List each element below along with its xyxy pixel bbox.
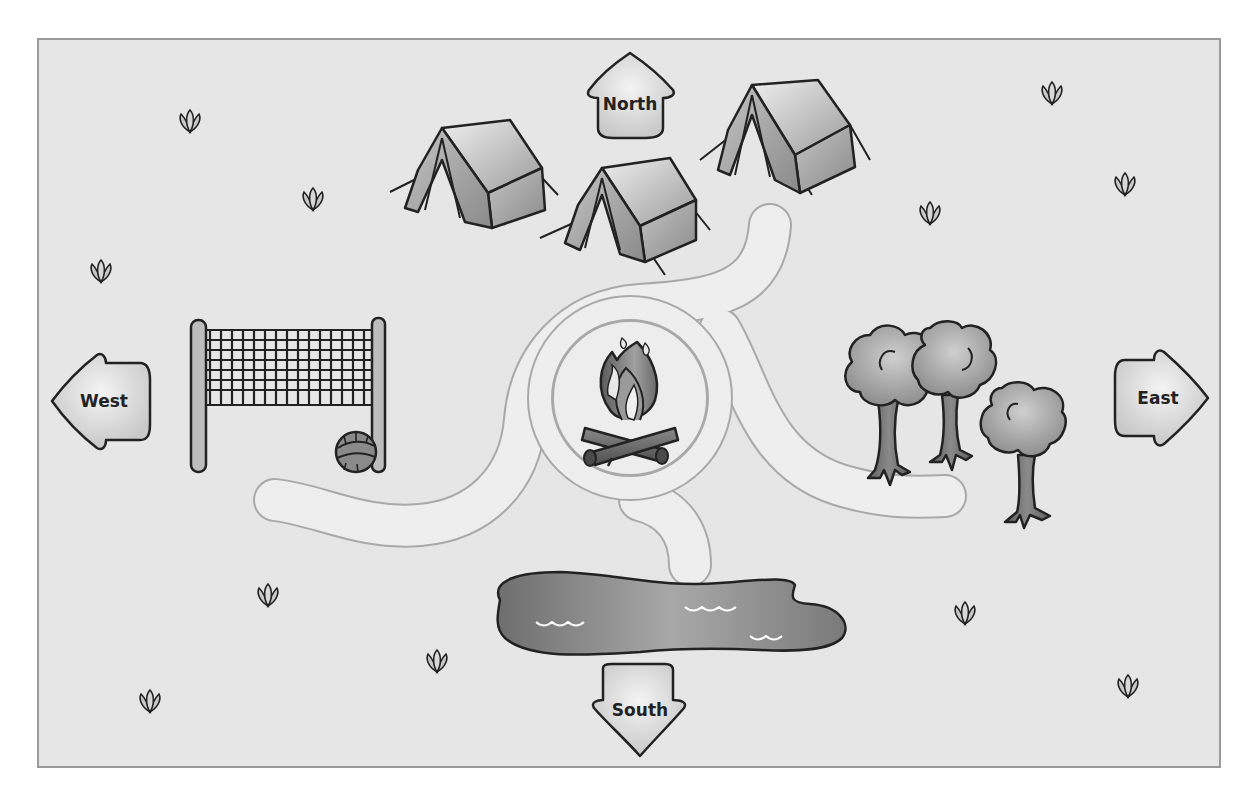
grass-sprout-icon: [1115, 173, 1135, 195]
grass-sprout-icon: [303, 188, 323, 210]
grass-sprout-icon: [258, 584, 278, 606]
tent-icon: [390, 120, 558, 228]
west-arrow: West: [52, 354, 150, 449]
grass-sprout-icon: [920, 202, 940, 224]
campground-map: North South West East: [0, 0, 1250, 794]
grass-sprout-icon: [1118, 675, 1138, 697]
grass-sprout-icon: [140, 690, 160, 712]
east-label: East: [1137, 388, 1178, 408]
north-arrow: North: [588, 53, 674, 138]
north-label: North: [603, 94, 658, 114]
grass-sprout-icon: [180, 110, 200, 132]
tent-icon: [540, 158, 710, 275]
grass-sprout-icon: [427, 650, 447, 672]
east-arrow: East: [1115, 351, 1208, 446]
tent-icon: [700, 80, 870, 195]
pond-icon: [498, 572, 846, 655]
south-label: South: [612, 700, 668, 720]
grass-sprout-icon: [955, 602, 975, 624]
grass-sprout-icon: [1042, 82, 1062, 104]
grass-sprout-icon: [91, 260, 111, 282]
west-label: West: [80, 391, 128, 411]
volleyball-icon: [336, 432, 376, 472]
tree-icon: [981, 382, 1066, 528]
south-arrow: South: [593, 664, 685, 756]
